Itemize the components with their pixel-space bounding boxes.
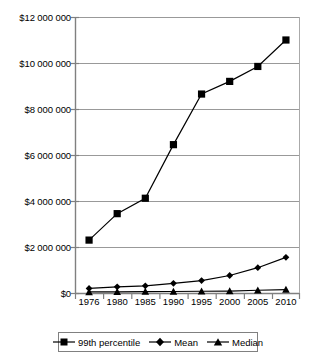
x-axis-tick-label: 1976 [78,296,99,307]
data-point-marker [226,78,233,85]
series-line-mean [89,257,286,288]
data-point-marker [198,90,205,97]
data-point-marker [226,272,233,279]
x-axis-tick-label: 1995 [191,296,212,307]
data-point-marker [170,141,177,148]
gridlines [75,18,300,248]
legend-label-99th-percentile: 99th percentile [78,337,140,348]
legend-label-mean: Mean [174,337,198,348]
data-point-marker [170,280,177,287]
data-point-marker [254,264,261,271]
x-axis-labels: 19761980198519901995200020052010 [0,296,323,312]
chart-legend: 99th percentile Mean Median [58,332,258,352]
data-point-marker [85,237,92,244]
x-axis-tick-label: 2005 [247,296,268,307]
x-axis-tick-label: 1985 [135,296,156,307]
x-axis-tick-label: 1990 [163,296,184,307]
series-markers [85,36,289,295]
legend-marker-triangle-icon [207,337,229,347]
y-axis-tick-label: $12 000 000 [19,12,71,23]
data-point-marker [114,210,121,217]
data-point-marker [198,277,205,284]
y-axis-tick-label: $4 000 000 [24,196,71,207]
x-axis-tick-label: 1980 [107,296,128,307]
y-axis-tick-label: $8 000 000 [24,104,71,115]
series-lines [89,40,286,292]
legend-item-mean[interactable]: Mean [149,337,198,348]
x-axis-tick-label: 2000 [219,296,240,307]
x-axis-tick-label: 2010 [275,296,296,307]
y-axis-tick-label: $2 000 000 [24,242,71,253]
data-point-marker [142,195,149,202]
data-point-marker [282,36,289,43]
data-point-marker [254,63,261,70]
chart-container: $0$2 000 000$4 000 000$6 000 000$8 000 0… [0,0,323,363]
legend-item-median[interactable]: Median [207,337,263,348]
y-axis-tick-label: $6 000 000 [24,150,71,161]
legend-item-99th-percentile[interactable]: 99th percentile [53,337,140,348]
legend-marker-diamond-icon [149,337,171,347]
legend-marker-square-icon [53,337,75,347]
legend-label-median: Median [232,337,263,348]
data-point-marker [283,254,290,261]
y-axis-tick-label: $10 000 000 [19,58,71,69]
